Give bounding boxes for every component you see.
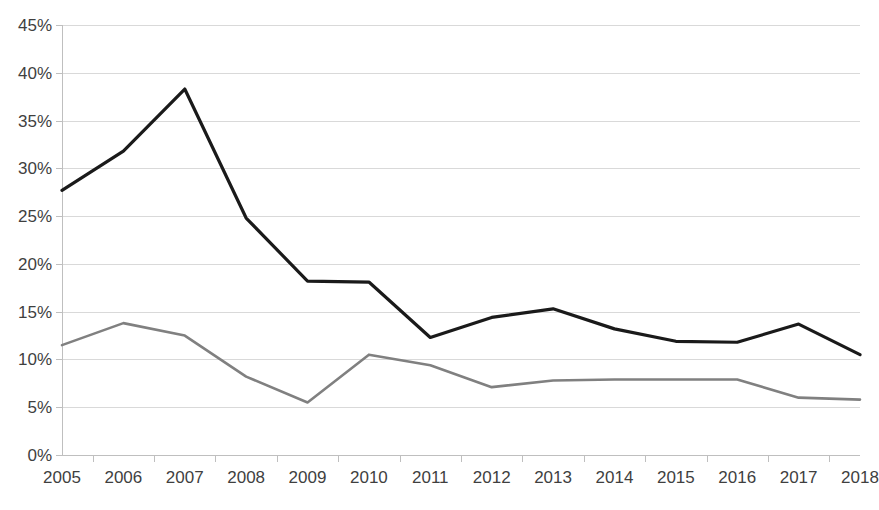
- axis-lines: [62, 25, 860, 456]
- data-line-series-gray: [62, 323, 860, 402]
- data-series-group: [62, 89, 860, 402]
- axis-tick-marks: [56, 26, 830, 463]
- data-line-series-dark: [62, 89, 860, 355]
